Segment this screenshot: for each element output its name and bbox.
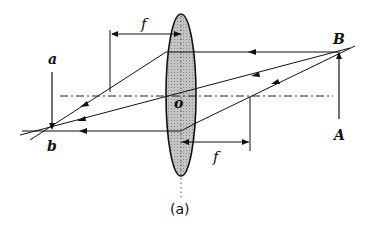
focal-label-right: f xyxy=(212,148,221,166)
lens-center-label: o xyxy=(174,95,183,111)
object-arrow xyxy=(336,52,342,119)
image-tip-label: b xyxy=(47,138,57,154)
figure-caption: (a) xyxy=(170,201,190,217)
object-base-label: A xyxy=(332,127,345,143)
object-top-label: B xyxy=(332,31,345,47)
image-arrow xyxy=(49,72,55,130)
focal-label-left: f xyxy=(140,15,149,33)
image-top-label: a xyxy=(48,51,57,67)
lens-ray-diagram: f f o B A a b (a) xyxy=(0,0,376,246)
